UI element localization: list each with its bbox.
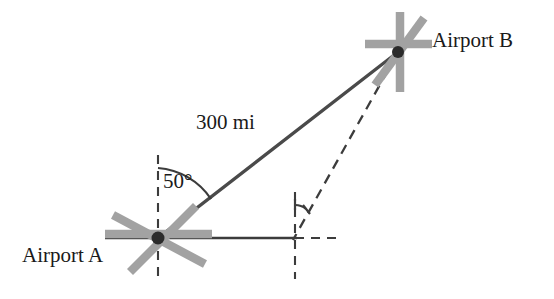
dashed-construction-lines <box>158 56 396 279</box>
airport-a-point <box>152 232 165 245</box>
airport-b-label: Airport B <box>432 28 513 53</box>
airport-a-label: Airport A <box>22 243 103 268</box>
angle-at-a-label: 50° <box>163 169 192 194</box>
solid-lines <box>105 52 398 238</box>
airport-b-point <box>392 46 404 58</box>
distance-label: 300 mi <box>196 110 255 135</box>
diagram-canvas: Airport A Airport B 300 mi 50° <box>0 0 554 299</box>
